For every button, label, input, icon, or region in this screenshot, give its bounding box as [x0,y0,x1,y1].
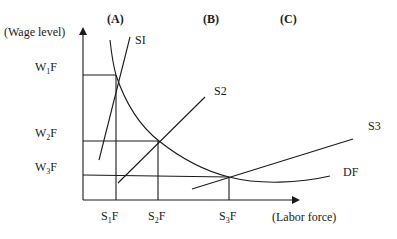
labor-label-s3f: S3F [219,209,237,225]
region-label-a: (A) [107,12,124,26]
y-axis-label: (Wage level) [4,25,65,39]
curve-label-s3: S3 [368,119,381,133]
supply-curve-s2 [118,97,205,183]
wage-label-w3f: W3F [35,160,57,176]
labor-label-s1f: S1F [101,209,119,225]
region-label-b: (B) [203,12,219,26]
labor-label-s2f: S2F [148,209,166,225]
curve-label-df: DF [343,165,359,179]
x-axis-label: (Labor force) [272,210,336,224]
wage-label-w1f: W1F [35,60,57,76]
demand-curve-df [110,40,330,182]
supply-curve-s3 [192,139,353,189]
w3f-guide [83,175,229,177]
region-label-c: (C) [280,12,297,26]
curve-label-s2: S2 [214,84,227,98]
labor-market-diagram: (Wage level) (Labor force) (A) (B) (C) W… [0,0,397,239]
wage-label-w2f: W2F [35,126,57,142]
curve-label-si: SI [135,33,146,47]
